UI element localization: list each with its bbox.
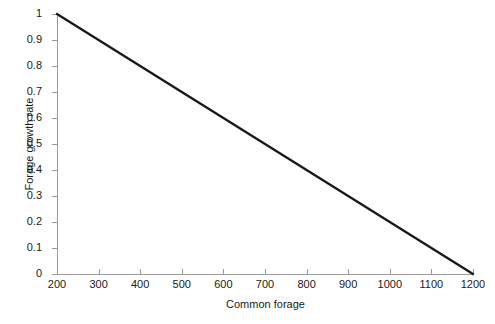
x-tick-mark — [348, 269, 349, 274]
x-tick-mark — [265, 269, 266, 274]
y-tick-mark — [52, 274, 57, 275]
x-tick-mark — [140, 269, 141, 274]
x-tick-mark — [57, 269, 58, 274]
x-tick-mark — [307, 269, 308, 274]
series-line-forage-growth-rate — [57, 14, 473, 274]
y-tick-mark — [52, 40, 57, 41]
x-axis-label: Common forage — [57, 298, 474, 311]
y-tick-mark — [52, 66, 57, 67]
x-axis-line — [57, 274, 474, 275]
y-axis-line — [57, 14, 58, 275]
y-tick-mark — [52, 118, 57, 119]
y-tick-mark — [52, 92, 57, 93]
x-tick-mark — [99, 269, 100, 274]
y-tick-mark — [52, 14, 57, 15]
y-tick-mark — [52, 248, 57, 249]
y-tick-mark — [52, 170, 57, 171]
data-line-layer — [0, 0, 495, 324]
x-tick-mark — [390, 269, 391, 274]
y-tick-mark — [52, 222, 57, 223]
x-tick-mark — [431, 269, 432, 274]
chart-figure: 00.10.20.30.40.50.60.70.80.91 2003004005… — [0, 0, 495, 324]
y-tick-mark — [52, 196, 57, 197]
x-tick-label: 1200 — [443, 278, 495, 290]
x-tick-mark — [223, 269, 224, 274]
y-axis-label: Forage growth rate — [22, 14, 36, 274]
x-tick-mark — [473, 269, 474, 274]
y-tick-mark — [52, 144, 57, 145]
x-tick-mark — [182, 269, 183, 274]
